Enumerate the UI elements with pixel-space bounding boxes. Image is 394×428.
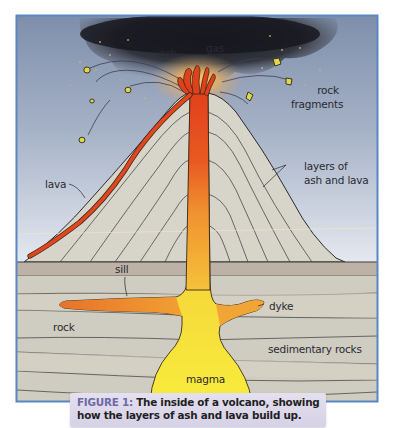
label-dyke: dyke	[269, 300, 293, 312]
label-gas: gas	[206, 42, 224, 54]
label-rock-fragments-line2: fragments	[291, 98, 343, 110]
label-layers-line2: ash and lava	[304, 174, 369, 186]
figure-caption: FIGURE 1: The inside of a volcano, showi…	[70, 393, 326, 427]
label-layers-line1: layers of	[304, 160, 347, 172]
volcano-figure: ash gas rock fragments lava layers of as…	[0, 0, 394, 428]
volcano-diagram	[0, 0, 394, 428]
caption-figure-number: FIGURE 1:	[77, 396, 133, 408]
caption-text-line1: The inside of a volcano, showing	[133, 396, 320, 408]
main-vent	[186, 93, 210, 290]
label-rock: rock	[53, 321, 75, 333]
label-magma: magma	[186, 373, 225, 385]
caption-line1: FIGURE 1: The inside of a volcano, showi…	[77, 396, 320, 409]
label-sedimentary-rocks: sedimentary rocks	[268, 343, 362, 355]
caption-text-line2: how the layers of ash and lava build up.	[77, 409, 320, 422]
label-ash: ash	[159, 47, 177, 59]
label-sill: sill	[115, 263, 128, 275]
label-lava: lava	[45, 178, 66, 190]
label-rock-fragments-line1: rock	[308, 84, 348, 96]
